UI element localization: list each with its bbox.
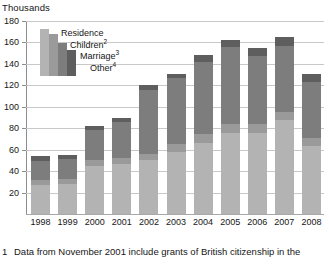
- gridline-180: [26, 21, 324, 22]
- bar-segment-2000-marriage: [85, 130, 104, 160]
- bar-2006: [248, 48, 267, 214]
- legend-label-other: Other4: [40, 63, 160, 75]
- bar-2004: [194, 55, 213, 214]
- y-tick-label-20: 20: [0, 189, 19, 198]
- y-tick-label-100: 100: [0, 103, 19, 112]
- bar-2000: [85, 126, 104, 214]
- bar-segment-2005-residence: [221, 133, 240, 214]
- bar-segment-2005-marriage: [221, 47, 240, 124]
- x-tick-label-2006: 2006: [242, 217, 272, 227]
- bar-segment-2008-residence: [302, 146, 321, 214]
- bar-2001: [112, 118, 131, 214]
- legend-label-group: ResidenceChildren2Marriage3Other4: [40, 28, 160, 74]
- chart-legend: ResidenceChildren2Marriage3Other4: [40, 29, 160, 79]
- bar-segment-2004-marriage: [194, 62, 213, 134]
- x-tick-label-2007: 2007: [269, 217, 299, 227]
- bar-segment-2006-other: [248, 48, 267, 57]
- bar-2007: [275, 37, 294, 214]
- legend-label-text: Marriage: [80, 51, 116, 61]
- bar-segment-2003-children: [167, 144, 186, 152]
- y-tick-mark-40: [22, 171, 26, 172]
- x-tick-label-2000: 2000: [80, 217, 110, 227]
- x-tick-label-2004: 2004: [188, 217, 218, 227]
- footnote-text: Data from November 2001 include grants o…: [14, 246, 300, 257]
- x-tick-label-2008: 2008: [296, 217, 326, 227]
- legend-label-superscript: 2: [104, 38, 108, 45]
- legend-label-residence: Residence: [40, 28, 160, 40]
- x-tick-label-2003: 2003: [161, 217, 191, 227]
- y-tick-label-80: 80: [0, 124, 19, 133]
- bar-segment-2004-residence: [194, 143, 213, 214]
- legend-label-superscript: 4: [113, 61, 117, 68]
- citizenship-grants-bar-chart: Thousands 20406080100120140160180 Reside…: [0, 0, 329, 267]
- bar-1999: [58, 155, 77, 214]
- y-tick-mark-80: [22, 128, 26, 129]
- y-tick-mark-180: [22, 21, 26, 22]
- y-tick-mark-120: [22, 85, 26, 86]
- y-tick-label-40: 40: [0, 167, 19, 176]
- x-tick-label-2005: 2005: [215, 217, 245, 227]
- y-tick-label-180: 180: [0, 17, 19, 26]
- bar-segment-2007-residence: [275, 120, 294, 214]
- bar-segment-2005-children: [221, 124, 240, 133]
- x-tick-label-2002: 2002: [134, 217, 164, 227]
- bar-segment-1999-marriage: [58, 159, 77, 178]
- footnote-number: 1: [2, 246, 14, 258]
- bar-segment-2008-children: [302, 138, 321, 147]
- legend-label-text: Children: [70, 40, 104, 50]
- y-tick-label-140: 140: [0, 60, 19, 69]
- y-tick-mark-100: [22, 107, 26, 108]
- legend-label-text: Residence: [61, 28, 104, 38]
- y-tick-mark-160: [22, 42, 26, 43]
- y-tick-label-60: 60: [0, 146, 19, 155]
- bar-segment-2001-marriage: [112, 122, 131, 158]
- bar-segment-2001-residence: [112, 164, 131, 214]
- bar-segment-2003-residence: [167, 152, 186, 214]
- bar-segment-2006-children: [248, 124, 267, 133]
- bar-segment-2008-other: [302, 74, 321, 83]
- bar-segment-2002-marriage: [139, 90, 158, 154]
- bar-segment-2004-children: [194, 134, 213, 144]
- bar-1998: [31, 156, 50, 214]
- bar-segment-2007-children: [275, 112, 294, 120]
- legend-label-text: Other: [90, 63, 113, 73]
- bar-segment-1998-marriage: [31, 161, 50, 179]
- y-tick-label-120: 120: [0, 81, 19, 90]
- bar-2008: [302, 74, 321, 214]
- bar-segment-2006-residence: [248, 133, 267, 214]
- bar-segment-1999-residence: [58, 184, 77, 214]
- legend-label-superscript: 3: [116, 49, 120, 56]
- y-tick-mark-20: [22, 193, 26, 194]
- x-tick-label-1998: 1998: [26, 217, 56, 227]
- bar-segment-2007-marriage: [275, 46, 294, 112]
- y-tick-mark-140: [22, 64, 26, 65]
- footnote: 1Data from November 2001 include grants …: [2, 246, 328, 258]
- y-tick-label-160: 160: [0, 38, 19, 47]
- bar-2003: [167, 74, 186, 214]
- legend-label-marriage: Marriage3: [40, 51, 160, 63]
- bar-segment-2007-other: [275, 37, 294, 46]
- bar-segment-2003-marriage: [167, 78, 186, 144]
- bar-segment-2002-residence: [139, 160, 158, 214]
- x-tick-label-2001: 2001: [107, 217, 137, 227]
- bar-2002: [139, 85, 158, 214]
- legend-label-children: Children2: [40, 40, 160, 52]
- bar-segment-2000-residence: [85, 166, 104, 214]
- y-tick-mark-60: [22, 150, 26, 151]
- bar-segment-2006-marriage: [248, 56, 267, 124]
- bar-segment-2008-marriage: [302, 82, 321, 138]
- gridline-0: [26, 214, 324, 215]
- bar-2005: [221, 40, 240, 214]
- x-tick-label-1999: 1999: [53, 217, 83, 227]
- y-axis-unit-label: Thousands: [2, 2, 50, 13]
- bar-segment-1998-residence: [31, 185, 50, 214]
